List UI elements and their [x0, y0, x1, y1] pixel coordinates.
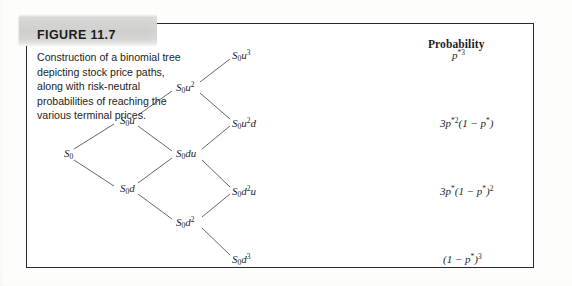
tree-node-s0: S0	[64, 147, 73, 161]
scanned-page: FIGURE 11.7 Construction of a binomial t…	[0, 0, 572, 286]
figure-number-label: FIGURE 11.7	[37, 28, 116, 42]
tree-node-s0du: S0du	[176, 147, 196, 161]
terminal-probability-2: 3p*2(1 − p*)	[0, 116, 508, 129]
figure-caption: Construction of a binomial tree depictin…	[37, 50, 189, 123]
edge-n1d-n2dd	[138, 194, 172, 219]
terminal-probability-1: p*3	[0, 48, 508, 61]
edge-n2du-n3b	[202, 126, 230, 149]
edge-n2dd-n3c	[202, 194, 230, 217]
edge-n1u-n2du	[138, 126, 172, 151]
tree-node-s0u2: S0u2	[176, 80, 194, 95]
edge-n1d-n2du	[138, 158, 172, 183]
terminal-probability-3: 3p*(1 − p*)2	[0, 184, 508, 197]
edge-n0-n1d	[74, 160, 114, 186]
terminal-probability-4: (1 − p*)3	[0, 252, 508, 265]
edge-n2uu-n3a	[200, 59, 230, 82]
tree-node-s0d2: S0d2	[176, 215, 194, 230]
edge-n2du-n3c	[202, 160, 230, 187]
edge-n2dd-n3d	[202, 228, 230, 255]
